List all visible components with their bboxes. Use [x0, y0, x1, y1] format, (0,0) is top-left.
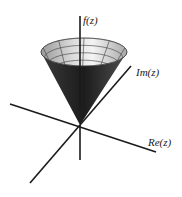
im-axis-label: Im(z) — [135, 66, 160, 79]
re-axis-label: Re(z) — [147, 136, 172, 149]
cone-diagram: f(z) Im(z) Re(z) — [0, 0, 182, 197]
f-axis-label: f(z) — [83, 14, 98, 27]
im-axis-front — [30, 125, 80, 183]
